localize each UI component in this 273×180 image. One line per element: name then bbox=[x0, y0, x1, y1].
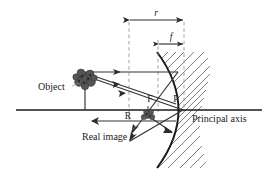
ray-diagram: r f bbox=[0, 0, 273, 180]
real-image-label: Real image bbox=[82, 131, 128, 142]
center-of-curvature-label: R bbox=[125, 111, 132, 121]
focal-dimension: f bbox=[159, 32, 183, 44]
incident-ray-arrowheads bbox=[112, 69, 126, 97]
radius-label: r bbox=[154, 8, 158, 18]
incident-ray-pole bbox=[86, 76, 183, 110]
radius-dimension: r bbox=[130, 8, 183, 20]
principal-axis-label: Principal axis bbox=[192, 113, 247, 124]
focus-label: F bbox=[147, 94, 152, 104]
object-tree bbox=[73, 69, 97, 110]
real-image-tree bbox=[141, 106, 155, 120]
incident-rays bbox=[85, 72, 183, 110]
construction-lines bbox=[129, 22, 184, 120]
incident-ray-focal bbox=[85, 73, 176, 104]
object-label: Object bbox=[38, 81, 65, 92]
focal-label: f bbox=[170, 32, 174, 42]
optics-diagram-svg: r f bbox=[0, 0, 273, 180]
pole-label: P bbox=[173, 94, 178, 104]
